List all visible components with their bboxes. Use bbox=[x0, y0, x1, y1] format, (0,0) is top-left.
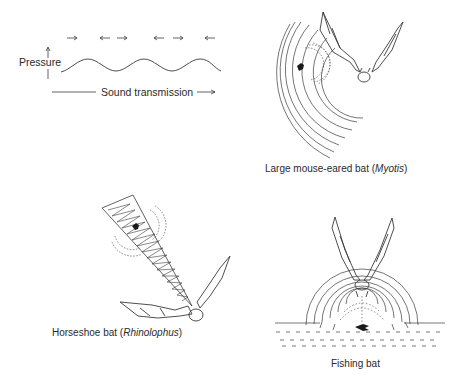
myotis-panel: Large mouse-eared bat (Myotis) bbox=[265, 12, 407, 174]
arrow-right-icon bbox=[173, 36, 183, 40]
particle-arrows bbox=[67, 36, 215, 40]
bat-fishing-icon bbox=[332, 217, 394, 297]
rhinolophus-label: Horseshoe bat (Rhinolophus) bbox=[52, 327, 182, 338]
insect-prey-icon bbox=[297, 63, 304, 71]
myotis-label: Large mouse-eared bat (Myotis) bbox=[265, 163, 407, 174]
pressure-label: Pressure bbox=[19, 56, 61, 68]
fishing-bat-label: Fishing bat bbox=[331, 358, 380, 369]
sound-transmission-label: Sound transmission bbox=[101, 86, 193, 98]
bat-myotis-icon bbox=[320, 12, 403, 82]
pressure-sine-wave bbox=[61, 59, 221, 72]
arrow-left-icon bbox=[100, 36, 110, 40]
bat-echolocation-diagram: Pressure Sound transmission bbox=[0, 0, 461, 378]
fish-prey-icon bbox=[355, 324, 369, 331]
rhinolophus-panel: Horseshoe bat (Rhinolophus) bbox=[52, 195, 230, 338]
arrow-left-icon bbox=[154, 36, 164, 40]
fishing-bat-panel: Fishing bat bbox=[275, 217, 445, 369]
echo-wavefronts bbox=[277, 22, 363, 158]
arrow-right-icon bbox=[117, 36, 127, 40]
sound-wave-panel: Pressure Sound transmission bbox=[19, 36, 221, 98]
sound-beam bbox=[102, 195, 192, 306]
bat-rhinolophus-icon bbox=[120, 256, 230, 321]
arrow-right-icon bbox=[67, 36, 77, 40]
returning-echo bbox=[305, 43, 330, 84]
arrow-left-icon bbox=[205, 36, 215, 40]
